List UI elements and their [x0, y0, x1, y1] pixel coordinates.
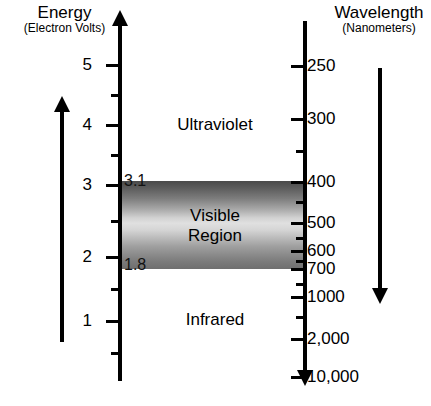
wavelength-tick-minor — [296, 316, 304, 319]
arrow-down-head-icon — [372, 288, 388, 304]
arrow-shaft — [378, 68, 382, 290]
wavelength-tick-label: 500 — [307, 213, 335, 233]
wavelength-tick-major — [291, 222, 304, 225]
wavelength-tick-label: 600 — [307, 241, 335, 261]
energy-axis-line — [118, 24, 122, 381]
energy-tick-label: 1 — [83, 311, 92, 331]
energy-tick-minor — [111, 220, 119, 223]
energy-tick-minor — [111, 288, 119, 291]
wavelength-axis-unit: (Nanometers) — [327, 22, 431, 35]
wavelength-tick-label: 1000 — [307, 287, 345, 307]
wavelength-tick-major — [291, 181, 304, 184]
wavelength-tick-major — [291, 338, 304, 341]
wavelength-tick-label: 2,000 — [307, 329, 350, 349]
region-label-ultraviolet: Ultraviolet — [150, 115, 280, 135]
energy-axis-unit: (Electron Volts) — [2, 22, 127, 35]
wavelength-tick-label: 10,000 — [307, 367, 359, 387]
boundary-value-upper-ev: 3.1 — [124, 172, 146, 190]
arrow-up-head-icon — [54, 96, 70, 112]
region-label-visible-line1: Visible — [150, 206, 280, 226]
wavelength-axis-title: Wavelength — [327, 4, 431, 22]
wavelength-tick-major — [291, 250, 304, 253]
energy-tick-major — [106, 256, 119, 259]
wavelength-tick-minor — [296, 237, 304, 240]
wavelength-tick-major — [291, 118, 304, 121]
energy-tick-label: 5 — [83, 55, 92, 75]
energy-tick-major — [106, 320, 119, 323]
region-label-visible-line2: Region — [150, 226, 280, 246]
energy-tick-major — [106, 64, 119, 67]
energy-tick-major — [106, 184, 119, 187]
wavelength-increasing-arrow-icon — [370, 68, 390, 308]
energy-tick-minor — [111, 352, 119, 355]
wavelength-tick-major — [291, 376, 304, 379]
energy-tick-label: 2 — [83, 247, 92, 267]
wavelength-tick-label: 250 — [307, 56, 335, 76]
spectrum-diagram: Energy (Electron Volts) Wavelength (Nano… — [0, 0, 431, 406]
arrow-shaft — [60, 112, 64, 342]
energy-tick-label: 3 — [83, 175, 92, 195]
energy-increasing-arrow-icon — [52, 96, 72, 346]
wavelength-tick-minor — [296, 260, 304, 263]
wavelength-tick-label: 400 — [307, 172, 335, 192]
wavelength-tick-label: 300 — [307, 109, 335, 129]
energy-tick-minor — [111, 94, 119, 97]
boundary-value-lower-ev: 1.8 — [124, 256, 146, 274]
wavelength-tick-minor — [296, 201, 304, 204]
energy-axis-heading: Energy (Electron Volts) — [2, 4, 127, 34]
wavelength-tick-major — [291, 296, 304, 299]
wavelength-tick-major — [291, 268, 304, 271]
wavelength-tick-minor — [296, 150, 304, 153]
wavelength-tick-major — [291, 65, 304, 68]
energy-axis-title: Energy — [2, 4, 127, 22]
wavelength-tick-minor — [296, 283, 304, 286]
energy-tick-minor — [111, 154, 119, 157]
energy-tick-major — [106, 124, 119, 127]
region-label-visible: Visible Region — [150, 206, 280, 245]
wavelength-tick-label: 700 — [307, 259, 335, 279]
wavelength-axis-heading: Wavelength (Nanometers) — [327, 4, 431, 34]
energy-tick-label: 4 — [83, 115, 92, 135]
region-label-infrared: Infrared — [150, 310, 280, 330]
